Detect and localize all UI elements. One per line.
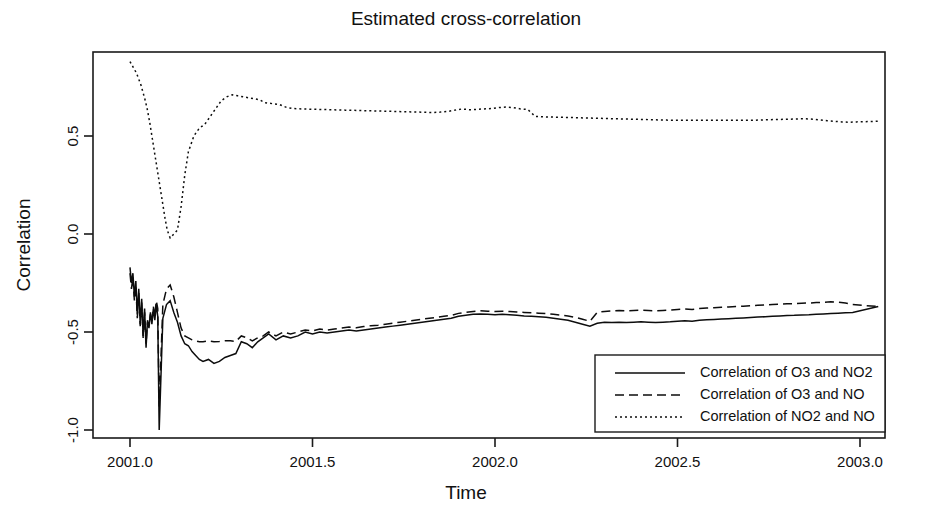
- chart-legend: Correlation of O3 and NO2Correlation of …: [595, 355, 885, 432]
- y-tick-label: 0.0: [64, 224, 81, 245]
- x-axis-ticks: 2001.02001.52002.02002.52003.0: [107, 438, 883, 470]
- x-axis-title: Time: [445, 482, 487, 503]
- y-tick-label: -0.5: [64, 319, 81, 345]
- x-tick-label: 2003.0: [837, 453, 883, 470]
- y-axis-ticks: 0.50.0-0.5-1.0: [64, 126, 93, 443]
- series-line-3: [130, 62, 878, 238]
- chart-title: Estimated cross-correlation: [351, 8, 581, 29]
- x-tick-label: 2002.5: [655, 453, 701, 470]
- legend-label: Correlation of O3 and NO2: [700, 364, 872, 380]
- x-tick-label: 2001.0: [107, 453, 153, 470]
- y-tick-label: 0.5: [64, 126, 81, 147]
- x-tick-label: 2001.5: [290, 453, 336, 470]
- y-tick-label: -1.0: [64, 417, 81, 443]
- legend-label: Correlation of O3 and NO: [700, 386, 864, 402]
- y-axis-title: Correlation: [13, 199, 34, 292]
- cross-correlation-chart: Estimated cross-correlation 2001.02001.5…: [0, 0, 929, 512]
- legend-label: Correlation of NO2 and NO: [700, 408, 875, 424]
- x-tick-label: 2002.0: [472, 453, 518, 470]
- chart-container: Estimated cross-correlation 2001.02001.5…: [0, 0, 929, 512]
